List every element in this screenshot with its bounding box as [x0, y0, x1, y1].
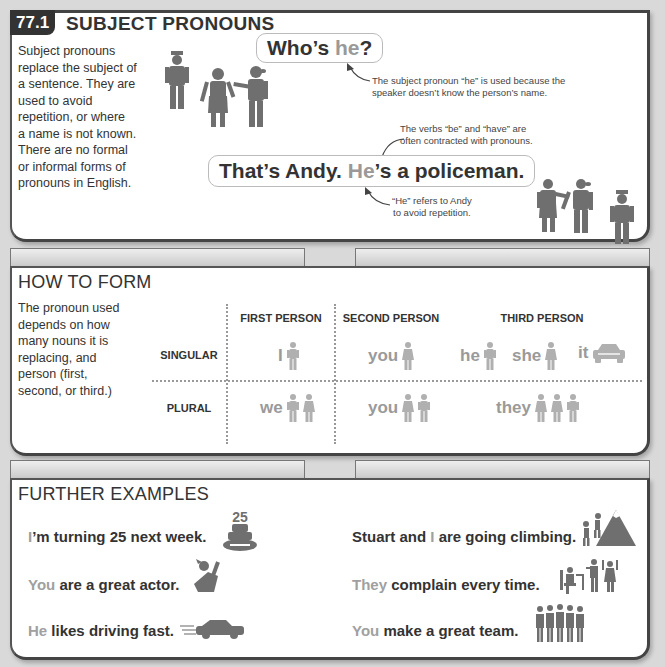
how-to-form-panel: HOW TO FORM The pronoun used depends on … [10, 266, 650, 456]
example-sentence: They complain every time. [352, 576, 540, 593]
woman-icon [545, 342, 557, 370]
bubble-text: ’s a policeman. [375, 159, 525, 182]
highlight-pronoun: He [28, 622, 47, 639]
annotation-line: often contracted with pronouns. [400, 135, 533, 147]
intro-line: replace the subject of [18, 60, 137, 77]
annotation-contracted: The verbs “be” and “have” are often cont… [400, 123, 533, 147]
example-text: Stuart and [352, 528, 430, 545]
intro-line: a sentence. They are [18, 76, 137, 93]
annotation-refers-andy: “He” refers to Andy to avoid repetition. [392, 195, 472, 219]
example-sentence: Stuart and I are going climbing. [352, 528, 576, 545]
panel-connector [10, 248, 305, 268]
intro-line: There are no formal [18, 142, 137, 159]
bubble-text: That’s Andy. [219, 159, 348, 182]
column-header-first-person: FIRST PERSON [228, 312, 334, 324]
highlight-pronoun: He [348, 159, 375, 182]
row-divider [152, 380, 642, 382]
highlight-pronoun: They [352, 576, 387, 593]
highlight-pronoun: You [352, 622, 379, 639]
annotation-line: The subject pronoun “he” is used because… [372, 75, 565, 87]
pronoun-you-singular: you [368, 342, 414, 370]
intro-line: a name is not known. [18, 126, 137, 143]
section-number-badge: 77.1 [10, 10, 55, 35]
intro-line: The pronoun used [18, 300, 119, 317]
highlight-pronoun: he [335, 36, 360, 59]
annotation-line: The verbs “be” and “have” are [400, 123, 533, 135]
people-group-icon [534, 179, 644, 245]
intro-text: Subject pronouns replace the subject of … [18, 43, 137, 192]
people-group-icon [162, 51, 272, 136]
example-sentence: You are a great actor. [28, 576, 179, 593]
intro-line: used to avoid [18, 93, 137, 110]
panel-connector [10, 460, 305, 480]
pronoun-text: it [578, 343, 588, 363]
intro-line: many nouns it is [18, 333, 119, 350]
section-title: HOW TO FORM [18, 272, 152, 293]
pronoun-you-plural: you [368, 394, 432, 422]
row-header-plural: PLURAL [152, 402, 226, 414]
birthday-cake-icon: 25 [222, 508, 258, 552]
row-header-singular: SINGULAR [152, 349, 226, 361]
intro-line: pronouns in English. [18, 175, 137, 192]
section-title: SUBJECT PRONOUNS [66, 13, 275, 35]
highlight-pronoun: You [28, 576, 55, 593]
fast-car-icon [180, 618, 246, 640]
pronoun-they: they [496, 394, 581, 422]
pronoun-it: it [578, 342, 626, 364]
team-icon [534, 604, 586, 644]
example-text: are going climbing. [435, 528, 577, 545]
arrow-icon [362, 187, 392, 209]
pronoun-text: I [278, 346, 283, 366]
pronoun-text: you [368, 398, 398, 418]
pronoun-i: I [278, 342, 299, 370]
intro-line: or informal forms of [18, 159, 137, 176]
intro-text: The pronoun used depends on how many nou… [18, 300, 119, 399]
intro-line: repetition, or where [18, 109, 137, 126]
pronoun-text: they [496, 398, 531, 418]
example-text: complain every time. [387, 576, 540, 593]
intro-line: Subject pronouns [18, 43, 137, 60]
panel-connector [355, 248, 650, 268]
woman-icon [402, 342, 414, 370]
column-divider [334, 304, 336, 444]
svg-text:25: 25 [232, 509, 248, 525]
example-text: are a great actor. [55, 576, 179, 593]
two-people-icon [287, 394, 317, 422]
column-header-second-person: SECOND PERSON [336, 312, 446, 324]
actor-icon [192, 556, 232, 596]
column-divider [226, 304, 228, 444]
intro-line: person (first, [18, 366, 119, 383]
bubble-text: ? [360, 36, 373, 59]
section-title: FURTHER EXAMPLES [18, 484, 209, 505]
intro-line: second, or third.) [18, 383, 119, 400]
example-sentence: He likes driving fast. [28, 622, 174, 639]
pronoun-he: he [460, 342, 496, 370]
person-icon [287, 342, 299, 370]
pronoun-text: we [260, 398, 283, 418]
annotation-line: to avoid repetition. [392, 207, 472, 219]
annotation-he-used: The subject pronoun “he” is used because… [372, 75, 565, 99]
column-header-third-person: THIRD PERSON [452, 312, 632, 324]
intro-line: depends on how [18, 317, 119, 334]
pronoun-text: he [460, 346, 480, 366]
pronoun-she: she [512, 342, 557, 370]
subject-pronouns-panel: 77.1 SUBJECT PRONOUNS Subject pronouns r… [10, 10, 650, 242]
annotation-line: “He” refers to Andy [392, 195, 472, 207]
man-icon [484, 342, 496, 370]
pronoun-we: we [260, 394, 317, 422]
car-icon [592, 342, 626, 364]
example-text: make a great team. [379, 622, 518, 639]
further-examples-panel: FURTHER EXAMPLES I’m turning 25 next wee… [10, 478, 650, 660]
example-sentence: You make a great team. [352, 622, 518, 639]
panel-connector [355, 460, 650, 480]
three-people-icon [535, 394, 581, 422]
speech-bubble-thats-andy: That’s Andy. He’s a policeman. [208, 155, 535, 187]
complaining-people-icon [560, 558, 620, 594]
annotation-line: speaker doesn’t know the person’s name. [372, 87, 565, 99]
arrow-icon [342, 63, 372, 85]
pronoun-text: she [512, 346, 541, 366]
example-text: likes driving fast. [47, 622, 174, 639]
bubble-text: Who’s [267, 36, 335, 59]
speech-bubble-whos-he: Who’s he? [256, 33, 383, 63]
intro-line: replacing, and [18, 350, 119, 367]
